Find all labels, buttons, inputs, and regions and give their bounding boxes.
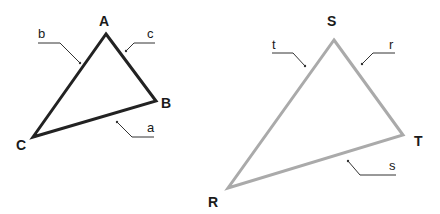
vertex-label-a: A <box>99 13 109 29</box>
side-label-b: b <box>38 26 45 41</box>
vertex-label-c: C <box>16 137 26 153</box>
vertex-label-r: R <box>208 194 218 210</box>
side-label-a: a <box>147 120 155 135</box>
vertex-label-b: B <box>161 95 171 111</box>
leader-line-r <box>362 53 395 64</box>
triangle-rst <box>228 40 403 188</box>
triangle-abc <box>33 34 156 137</box>
triangle-diagram: A B C b c a S T R t r s <box>0 0 440 214</box>
side-label-s: s <box>389 158 396 173</box>
leader-dot-s <box>347 160 349 162</box>
leader-dot-t <box>304 65 306 67</box>
leader-line-c <box>126 43 155 51</box>
vertex-label-t: T <box>414 133 423 149</box>
leader-dot-r <box>361 63 363 65</box>
side-label-r: r <box>389 37 394 52</box>
leader-line-b <box>38 43 80 63</box>
leader-dot-a <box>116 121 118 123</box>
side-label-c: c <box>147 26 154 41</box>
side-label-t: t <box>272 37 276 52</box>
leader-dot-b <box>79 62 81 64</box>
leader-line-t <box>272 53 305 66</box>
leader-dot-c <box>125 50 127 52</box>
vertex-label-s: S <box>327 13 336 29</box>
diagram-svg: A B C b c a S T R t r s <box>0 0 440 214</box>
